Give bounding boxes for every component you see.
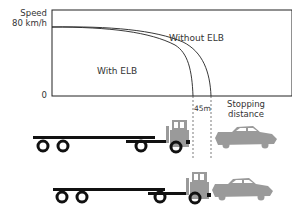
tractor-icon — [186, 172, 211, 203]
trailer-wheel-icon — [136, 141, 146, 151]
trailer-wheel-icon — [155, 192, 165, 202]
y-axis-zero: 0 — [42, 90, 47, 100]
y-axis-label-80kmh: 80 km/h — [12, 18, 47, 28]
chart-frame — [52, 10, 292, 96]
trailer-wheel-icon — [57, 192, 67, 202]
y-axis-label-speed: Speed — [20, 8, 47, 18]
label-with-elb: With ELB — [97, 66, 137, 76]
distance-gap-label: 45m — [194, 104, 211, 113]
trailer-bed — [33, 136, 155, 139]
trailer-bed — [53, 188, 165, 191]
car-icon — [212, 178, 273, 201]
trailer-wheel-icon — [38, 141, 48, 151]
x-axis-label-distance: distance — [228, 109, 264, 119]
car-icon — [215, 126, 277, 149]
elb-braking-diagram: Speed 80 km/h 0 With ELB Without ELB 45m… — [0, 0, 292, 220]
trailer-wheel-icon — [77, 192, 87, 202]
trailer-wheel-icon — [58, 141, 68, 151]
scene-without-elb — [53, 172, 273, 203]
x-axis-label-stopping: Stopping — [227, 99, 265, 109]
label-without-elb: Without ELB — [169, 33, 224, 43]
scene-with-elb — [33, 120, 277, 152]
tractor-icon — [166, 120, 190, 152]
